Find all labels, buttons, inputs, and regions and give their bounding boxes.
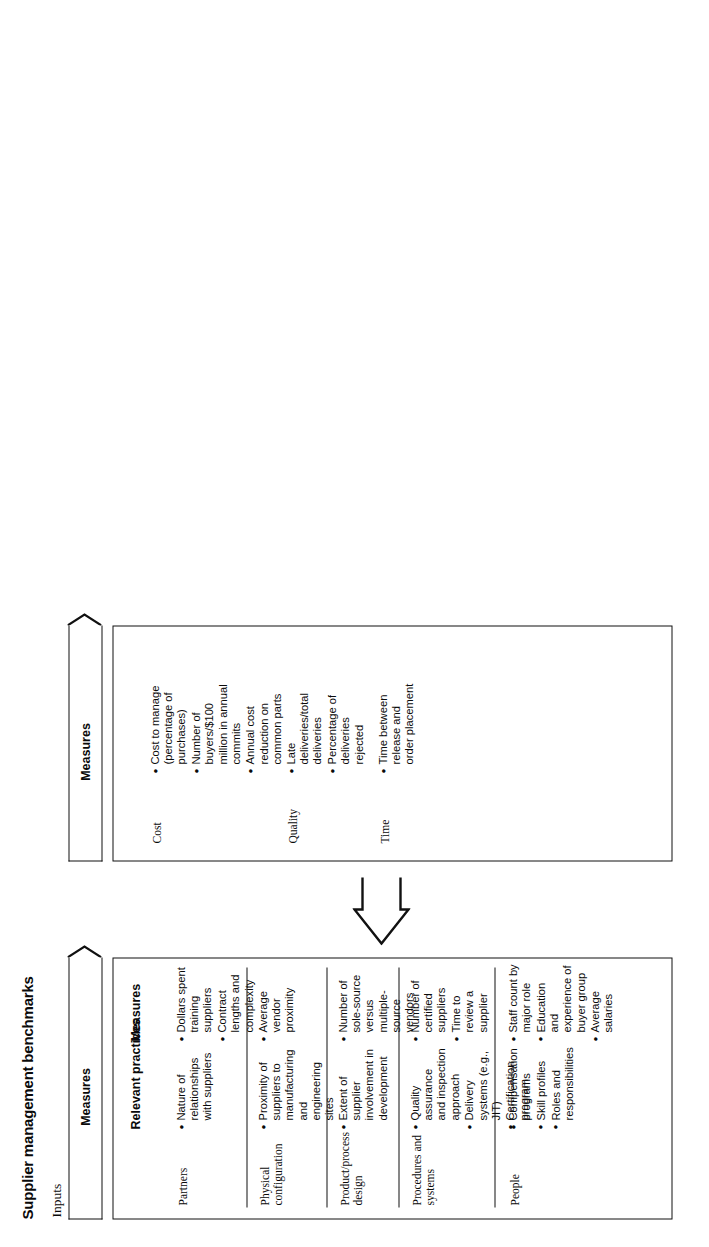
list-item: Skill profiles [534,1047,547,1129]
list-item: Average salaries [588,963,614,1041]
inputs-banner-label: Measures [69,975,101,1218]
list-item: Quality assurance and inspection approac… [408,1047,461,1129]
list-item: Staff count by major role [506,963,532,1041]
list-item: Number of sole-source versus multiple-so… [336,963,415,1041]
list-item: Cost to manage (percentage of purchases) [148,681,188,773]
inputs-row-measures-partners: Dollars spent training suppliers Contrac… [174,963,256,1041]
list-item: Late deliveries/total deliveries [284,681,324,773]
supplier-management-benchmarks-figure: Supplier management benchmarks Inputs Ou… [0,0,709,1247]
column-header-measures-inputs: Measures [128,983,142,1041]
inputs-row-measures-people: Staff count by major role Education and … [506,963,616,1041]
list-item: Contract lengths and complexity [215,963,255,1041]
inputs-row-practices-physical-configuration: Proximity of suppliers to manufacturing … [256,1047,337,1129]
outputs-row-measures-quality: Late deliveries/total deliveries Percent… [284,681,366,773]
list-item: Compensation programs [506,1047,532,1129]
list-item: Number of buyers/$100 million in annual … [189,681,242,773]
list-item: Time to review a supplier [449,963,489,1041]
page-title: Supplier management benchmarks [18,976,35,1219]
list-item: Extent of supplier involvement in develo… [336,1047,389,1129]
band-label-inputs: Inputs [48,1183,64,1217]
list-item: Percentage of deliveries rejected [325,681,365,773]
list-item: Average vendor proximity [256,963,296,1041]
inputs-row-practices-people: Compensation programs Skill profiles Rol… [506,1047,577,1129]
figure-rotator: Supplier management benchmarks Inputs Ou… [0,0,709,1247]
inputs-row-divider-2 [326,967,327,1207]
outputs-row-measures-time: Time between release and order placement [376,681,417,773]
list-item: Nature of relationships with suppliers [174,1047,214,1129]
inputs-row-divider-1 [246,967,247,1207]
inputs-row-practices-partners: Nature of relationships with suppliers [174,1047,215,1129]
inputs-measures-banner: Measures [68,957,102,1219]
inputs-row-divider-3 [398,967,399,1207]
list-item: Number of certified suppliers [408,963,448,1041]
list-item: Dollars spent training suppliers [174,963,214,1041]
flow-arrow-icon [352,875,410,945]
list-item: Time between release and order placement [376,681,416,773]
inputs-row-practices-product-process-design: Extent of supplier involvement in develo… [336,1047,390,1129]
inputs-row-measures-product-process-design: Number of sole-source versus multiple-so… [336,963,417,1041]
list-item: Proximity of suppliers to manufacturing … [256,1047,335,1129]
list-item: Delivery systems (e.g., JIT) [462,1047,502,1129]
outputs-banner-label: Measures [69,643,101,860]
banner-arrow-tip-icon [67,603,101,625]
list-item: Education and experience of buyer group [534,963,587,1041]
banner-arrow-tip-icon [67,935,101,957]
list-item: Roles and responsibilities [549,1047,575,1129]
inputs-row-divider-4 [494,967,495,1207]
outputs-row-measures-cost: Cost to manage (percentage of purchases)… [148,681,285,773]
outputs-measures-banner: Measures [68,625,102,861]
list-item: Annual cost reduction on common parts [243,681,283,773]
inputs-row-measures-physical-configuration: Average vendor proximity [256,963,297,1041]
inputs-row-measures-procedures-and-systems: Number of certified suppliers Time to re… [408,963,490,1041]
